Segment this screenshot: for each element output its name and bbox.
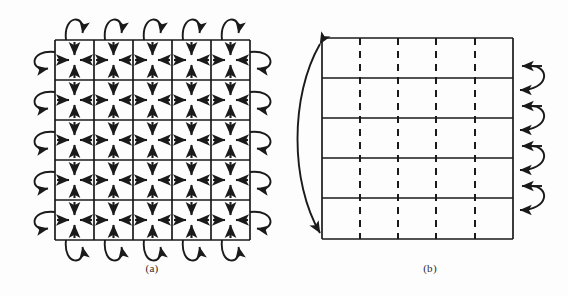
mesh-arrows-a bbox=[57, 42, 248, 238]
wrap-loops-top-a bbox=[66, 20, 239, 40]
wrap-loops-right-a bbox=[250, 52, 270, 229]
caption-panel-a: (a) bbox=[122, 262, 182, 274]
horizontal-lines-b bbox=[322, 38, 513, 239]
mesh-diagram-b bbox=[284, 0, 568, 296]
left-wrap-arc-b bbox=[298, 44, 321, 233]
mesh-diagram-a bbox=[0, 0, 284, 296]
left-arc-path bbox=[298, 44, 321, 233]
figure-root: (a) (b) bbox=[0, 0, 568, 296]
wrap-loops-right-b bbox=[520, 66, 544, 210]
wrap-loops-bottom-a bbox=[66, 240, 239, 260]
wrap-loops-left-a bbox=[35, 52, 55, 229]
dashed-column-lines-b bbox=[360, 38, 475, 239]
caption-panel-b: (b) bbox=[400, 262, 460, 274]
